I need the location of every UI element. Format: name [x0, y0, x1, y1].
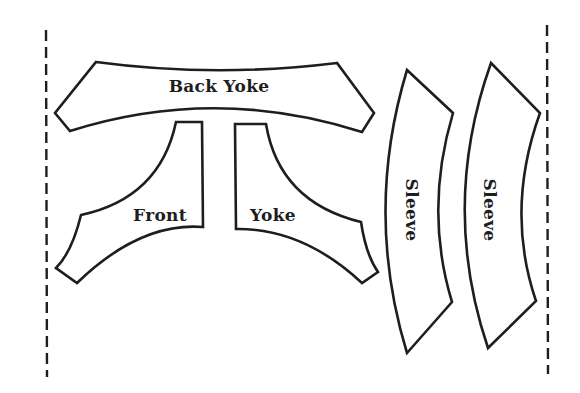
yoke-outline — [235, 124, 378, 283]
back-yoke-piece: Back Yoke — [55, 62, 374, 132]
sleeve-2-label: Sleeve — [480, 179, 500, 242]
back-yoke-label: Back Yoke — [169, 76, 270, 96]
front-piece: Front — [56, 122, 203, 283]
pattern-layout-diagram: Back Yoke Front Yoke Sleeve Sleeve — [0, 0, 580, 393]
sleeve-2-outline — [465, 63, 540, 348]
front-outline — [56, 122, 203, 283]
right-fold-line — [547, 25, 548, 374]
front-label: Front — [133, 205, 187, 225]
yoke-piece: Yoke — [235, 124, 378, 283]
sleeve-piece-1: Sleeve — [386, 70, 454, 353]
left-fold-line — [46, 30, 47, 377]
sleeve-1-label: Sleeve — [402, 179, 422, 242]
yoke-label: Yoke — [249, 205, 296, 225]
back-yoke-outline — [55, 62, 374, 132]
sleeve-piece-2: Sleeve — [465, 63, 540, 348]
